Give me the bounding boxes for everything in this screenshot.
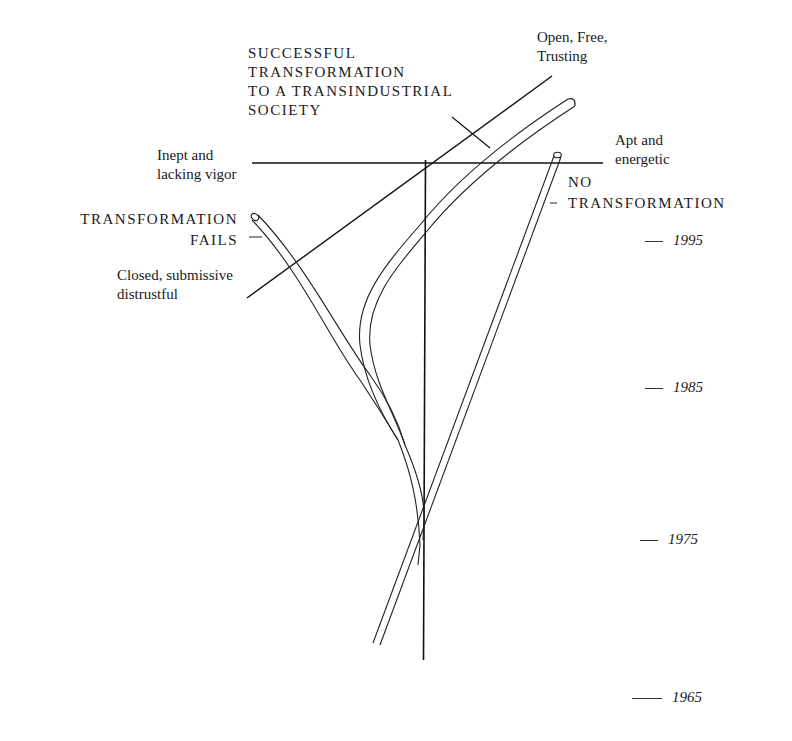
label-closed-line1: Closed, submissive bbox=[117, 266, 233, 285]
label-no-line2: TRANSFORMATION bbox=[568, 194, 726, 213]
successful-transformation-path bbox=[359, 99, 575, 445]
year-1995: 1995 bbox=[645, 232, 703, 249]
label-open-line2: Trusting bbox=[537, 47, 607, 66]
label-open-line1: Open, Free, bbox=[537, 28, 607, 47]
label-success-line2: TRANSFORMATION bbox=[248, 63, 453, 82]
year-label: 1985 bbox=[673, 379, 703, 395]
year-label: 1995 bbox=[673, 232, 703, 248]
label-no-transformation: NO TRANSFORMATION bbox=[568, 173, 726, 213]
label-apt-line1: Apt and bbox=[615, 131, 670, 150]
year-tick bbox=[632, 698, 662, 699]
label-success-line1: SUCCESSFUL bbox=[248, 44, 453, 63]
year-label: 1965 bbox=[672, 689, 702, 705]
no-transformation-path bbox=[373, 152, 561, 645]
label-success: SUCCESSFUL TRANSFORMATION TO A TRANSINDU… bbox=[248, 44, 453, 120]
transformation-fails-path bbox=[250, 212, 405, 445]
label-apt: Apt and energetic bbox=[615, 131, 670, 169]
year-1975: 1975 bbox=[640, 531, 698, 548]
label-inept-line2: lacking vigor bbox=[157, 165, 237, 184]
label-open-free-trusting: Open, Free, Trusting bbox=[537, 28, 607, 66]
label-fails-line2: FAILS bbox=[46, 231, 238, 250]
year-tick bbox=[645, 241, 663, 242]
year-tick bbox=[640, 540, 658, 541]
label-inept: Inept and lacking vigor bbox=[157, 146, 237, 184]
year-1985: 1985 bbox=[645, 379, 703, 396]
openness-axis-tick bbox=[452, 117, 490, 148]
label-no-line1: NO bbox=[568, 173, 726, 192]
label-success-line3: TO A TRANSINDUSTRIAL bbox=[248, 82, 453, 101]
label-closed: Closed, submissive distrustful bbox=[117, 266, 233, 304]
year-1965: 1965 bbox=[632, 689, 702, 706]
year-label: 1975 bbox=[668, 531, 698, 547]
label-closed-line2: distrustful bbox=[117, 285, 233, 304]
year-tick bbox=[645, 388, 663, 389]
label-fails-line1: TRANSFORMATION bbox=[46, 210, 238, 229]
merged-trunk-path bbox=[398, 440, 424, 565]
label-success-line4: SOCIETY bbox=[248, 101, 453, 120]
label-apt-line2: energetic bbox=[615, 150, 670, 169]
label-inept-line1: Inept and bbox=[157, 146, 237, 165]
label-transformation-fails: TRANSFORMATION FAILS bbox=[46, 210, 238, 250]
